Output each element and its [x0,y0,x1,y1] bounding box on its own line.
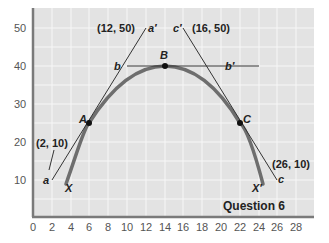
label-a: a [43,174,49,186]
x-tick: 26 [271,221,283,233]
x-tick: 24 [253,221,265,233]
annotation-12-50: (12, 50) [97,22,135,34]
point-b [162,63,168,69]
x-tick: 8 [105,221,111,233]
x-tick: 12 [140,221,152,233]
label-a-prime: a′ [148,22,158,34]
y-tick: 30 [14,98,26,110]
label-c-prime: c′ [173,22,183,34]
y-tick-labels: 50 40 30 20 10 [14,22,26,186]
label-x-prime: X′ [251,182,263,194]
label-point-b: B [160,49,168,61]
x-tick: 16 [177,221,189,233]
plot-area [33,8,314,217]
chart: 50 40 30 20 10 0 2 4 6 8 10 12 14 16 18 … [0,0,329,243]
x-tick: 4 [68,221,74,233]
x-tick: 20 [215,221,227,233]
label-x: X [64,182,73,194]
x-tick-labels: 0 2 4 6 8 10 12 14 16 18 20 22 24 26 28 [30,221,302,233]
chart-title: Question 6 [223,199,285,213]
x-tick: 2 [49,221,55,233]
label-c: c [278,173,284,185]
x-tick: 14 [159,221,171,233]
y-tick: 40 [14,60,26,72]
label-b-prime: b′ [225,60,236,72]
x-tick: 0 [30,221,36,233]
y-tick: 10 [14,174,26,186]
annotation-26-10: (26, 10) [272,158,310,170]
label-point-a: A [78,113,87,125]
x-tick: 28 [290,221,302,233]
x-tick: 18 [196,221,208,233]
annotation-2-10: (2, 10) [36,137,68,149]
x-tick: 10 [121,221,133,233]
y-tick: 50 [14,22,26,34]
x-tick: 6 [86,221,92,233]
x-tick: 22 [234,221,246,233]
y-tick: 20 [14,136,26,148]
annotation-16-50: (16, 50) [192,22,230,34]
label-point-c: C [243,113,252,125]
label-b: b [114,60,121,72]
